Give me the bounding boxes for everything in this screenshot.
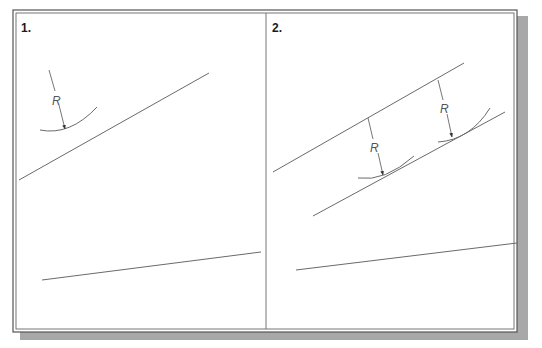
radius-label-2: R — [440, 102, 449, 116]
panel-2-label: 2. — [272, 21, 282, 35]
radius-label: R — [52, 94, 61, 108]
radius-label-1: R — [370, 141, 379, 155]
panel-1-label: 1. — [21, 21, 31, 35]
outer-frame — [13, 10, 517, 332]
construction-diagram: 1. R 2. R R — [0, 0, 542, 348]
